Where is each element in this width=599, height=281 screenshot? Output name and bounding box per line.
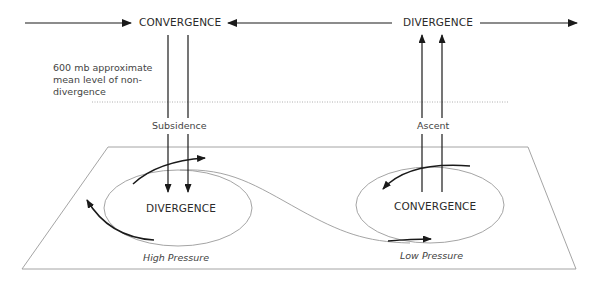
low-bottom-arrow <box>388 239 431 241</box>
ascent-label: Ascent <box>417 121 449 131</box>
upper-convergence-label: CONVERGENCE <box>139 17 221 28</box>
surface-divergence-label: DIVERGENCE <box>146 203 216 214</box>
diagram-canvas <box>0 0 599 281</box>
upper-divergence-label: DIVERGENCE <box>403 17 473 28</box>
low-pressure-caption: Low Pressure <box>400 251 463 261</box>
low-top-arrow <box>383 165 470 189</box>
high-bottom-arrow <box>87 200 154 240</box>
non-divergence-note: 600 mb approximate mean level of non-div… <box>53 62 163 98</box>
pressure-system-diagram: CONVERGENCE DIVERGENCE 600 mb approximat… <box>0 0 599 281</box>
surface-plane <box>22 147 576 269</box>
ascent-arrows <box>422 35 442 192</box>
high-pressure-caption: High Pressure <box>143 253 209 263</box>
subsidence-arrows <box>168 35 188 192</box>
surface-convergence-label: CONVERGENCE <box>394 201 476 212</box>
subsidence-label: Subsidence <box>152 121 207 131</box>
